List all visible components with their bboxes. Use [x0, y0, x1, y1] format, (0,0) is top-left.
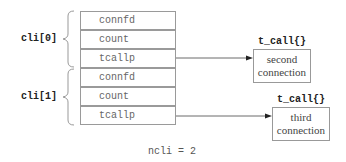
target-line1: third [273, 111, 329, 124]
field-connfd-0: connfd [80, 11, 176, 30]
field-count-0: count [80, 30, 176, 49]
brace-cli1 [63, 69, 74, 125]
group-label-cli1: cli[1] [21, 91, 57, 102]
arrowhead-0 [246, 56, 253, 61]
target-line1: second [254, 53, 310, 66]
target-type-label-1: t_call{} [277, 94, 325, 105]
field-tcallp-0: tcallp [80, 49, 176, 68]
target-line2: connection [273, 124, 329, 137]
group-label-cli0: cli[0] [21, 33, 57, 44]
brace-cli0 [63, 11, 74, 67]
target-type-label-0: t_call{} [258, 36, 306, 47]
field-connfd-1: connfd [80, 68, 176, 87]
arrowhead-1 [265, 114, 272, 119]
target-box-second-connection: second connection [253, 49, 311, 83]
field-count-1: count [80, 87, 176, 106]
ncli-count-label: ncli = 2 [148, 146, 196, 157]
target-line2: connection [254, 66, 310, 79]
field-tcallp-1: tcallp [80, 106, 176, 125]
target-box-third-connection: third connection [272, 107, 330, 141]
